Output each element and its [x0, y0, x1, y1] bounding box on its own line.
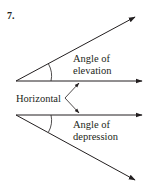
- depression-angle-arc: [49, 115, 52, 132]
- elevation-angle-arc: [49, 64, 52, 81]
- horizontal-pointer-up: [65, 83, 79, 98]
- depression-label-line1: Angle of: [73, 119, 118, 131]
- angle-of-elevation-label: Angle of elevation: [73, 53, 111, 77]
- depression-label-line2: depression: [73, 131, 118, 143]
- angle-of-depression-label: Angle of depression: [73, 119, 118, 143]
- horizontal-pointer-down: [65, 98, 79, 113]
- elevation-label-line2: elevation: [73, 65, 111, 77]
- horizontal-label: Horizontal: [16, 93, 61, 105]
- angle-diagram: 7. Angle of elevation Horizontal Angle o…: [0, 0, 158, 194]
- figure-number: 7.: [7, 10, 15, 21]
- elevation-label-line1: Angle of: [73, 53, 111, 65]
